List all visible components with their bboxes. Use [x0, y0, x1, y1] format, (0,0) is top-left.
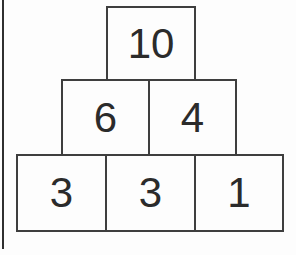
pyramid-cell-value: 6	[94, 97, 117, 139]
pyramid-cell-middle-right: 4	[148, 79, 237, 156]
number-pyramid-figure: 10 6 4 3 3 1	[0, 0, 296, 255]
pyramid-cell-bottom-left: 3	[16, 154, 107, 232]
pyramid-cell-value: 1	[227, 172, 250, 214]
pyramid-cell-value: 3	[50, 172, 73, 214]
pyramid-cell-value: 4	[181, 97, 204, 139]
page-edge-line	[2, 0, 4, 249]
pyramid-cell-bottom-middle: 3	[105, 154, 196, 232]
pyramid-cell-top: 10	[106, 6, 196, 81]
pyramid-cell-middle-left: 6	[61, 79, 150, 156]
pyramid-cell-value: 3	[139, 172, 162, 214]
pyramid-cell-bottom-right: 1	[194, 154, 284, 232]
pyramid-cell-value: 10	[128, 23, 175, 65]
